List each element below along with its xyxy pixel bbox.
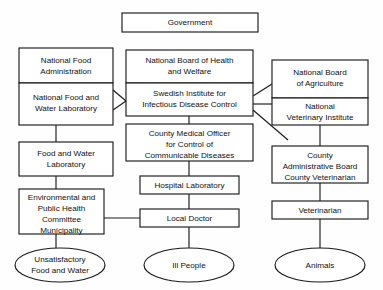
node-national-food-and-water-laboratory-label-line-0: National Food and [33,93,99,102]
node-national-food-administration-box[interactable] [19,48,113,83]
node-environmental-public-health-committee-label-line-1: Public Health [38,204,86,213]
node-unsatisfactory-food-and-water-label-line-1: Food and Water [31,266,89,275]
connector-national-food-water-lab-to-swedish-institute [113,101,126,110]
connector-national-food-administration-to-swedish-institute [113,90,126,101]
node-county-administrative-board-label-line-2: County Veterinarian [284,173,355,182]
node-county-administrative-board-label-line-1: Administrative Board [283,162,358,171]
node-national-veterinary-institute-label-line-1: Veterinary Institute [286,113,354,122]
node-national-food-and-water-laboratory-label-line-1: Water Laboratory [35,104,98,113]
node-county-administrative-board-label-line-0: County [307,151,334,160]
node-national-veterinary-institute-label-line-0: National [305,102,335,111]
node-government[interactable]: Government [122,13,258,32]
node-hospital-laboratory-label-line-0: Hospital Laboratory [154,181,225,190]
flowchart-canvas: Government National Food Administration … [0,0,383,290]
node-national-board-of-health-and-welfare[interactable]: National Board of Health and Welfare [126,50,253,83]
node-national-food-and-water-laboratory[interactable]: National Food and Water Laboratory [19,83,113,125]
node-county-administrative-board[interactable]: County Administrative Board County Veter… [272,146,368,183]
node-environmental-public-health-committee-label-line-3: Municipality [40,226,83,235]
node-national-veterinary-institute[interactable]: National Veterinary Institute [272,98,368,125]
node-national-board-of-agriculture-label-line-0: National Board [293,68,347,77]
node-national-food-administration-label-line-1: Administration [40,67,91,76]
node-national-board-of-health-and-welfare-label-line-1: and Welfare [168,67,212,76]
organisation-chart: Government National Food Administration … [0,0,383,290]
node-food-and-water-laboratory-label-line-0: Food and Water [37,149,95,158]
node-animals[interactable]: Animals [275,248,365,282]
node-county-medical-officer-label-line-0: County Medical Officer [149,129,231,138]
node-county-medical-officer-label-line-1: for Control of [166,140,214,149]
node-local-doctor[interactable]: Local Doctor [140,209,239,227]
node-government-label-line-0: Government [168,18,213,27]
node-national-food-administration-label-line-0: National Food [41,56,91,65]
node-unsatisfactory-food-and-water[interactable]: Unsatisfactory Food and Water [15,248,105,282]
node-local-doctor-label-line-0: Local Doctor [167,214,213,223]
node-food-and-water-laboratory-label-line-1: Laboratory [47,160,87,169]
node-veterinarian[interactable]: Veterinarian [272,201,368,219]
node-environmental-public-health-committee-label-line-2: Committee [42,215,82,224]
node-national-board-of-agriculture-label-line-1: of Agriculture [296,79,344,88]
node-national-board-of-health-and-welfare-label-line-0: National Board of Health [145,56,233,65]
node-county-medical-officer[interactable]: County Medical Officer for Control of Co… [126,124,253,161]
node-national-food-administration[interactable]: National Food Administration [19,48,113,83]
node-unsatisfactory-food-and-water-ellipse[interactable] [15,248,105,282]
node-food-and-water-laboratory[interactable]: Food and Water Laboratory [19,142,113,176]
node-swedish-institute-infectious-disease-control[interactable]: Swedish Institute for Infectious Disease… [126,83,253,116]
node-veterinarian-label-line-0: Veterinarian [298,206,341,215]
node-unsatisfactory-food-and-water-label-line-0: Unsatisfactory [34,255,86,264]
node-swedish-institute-infectious-disease-control-label-line-1: Infectious Disease Control [142,100,237,109]
node-environmental-public-health-committee[interactable]: Environmental and Public Health Committe… [19,189,104,235]
node-hospital-laboratory[interactable]: Hospital Laboratory [140,176,239,194]
node-environmental-public-health-committee-label-line-0: Environmental and [28,193,96,202]
node-ill-people[interactable]: Ill People [144,248,234,282]
node-animals-label-line-0: Animals [306,261,335,270]
node-national-board-of-agriculture[interactable]: National Board of Agriculture [272,60,368,98]
node-swedish-institute-infectious-disease-control-label-line-0: Swedish Institute for [153,89,226,98]
node-ill-people-label-line-0: Ill People [172,261,206,270]
node-county-medical-officer-label-line-2: Communicable Diseases [145,151,235,160]
connector-swedish-institute-to-board-of-agriculture [253,84,272,96]
